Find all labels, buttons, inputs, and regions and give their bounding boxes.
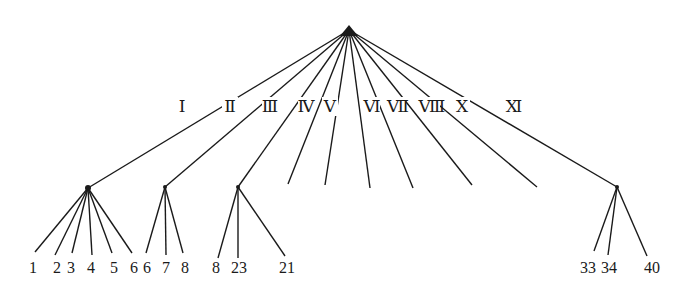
dendrogram: ⅠⅡⅢⅣⅤⅥⅦⅧⅩⅪ 12345667882321333440 [0,0,685,308]
branch-label: Ⅲ [262,97,278,116]
cluster-node [615,185,619,189]
leaf-label: 23 [231,259,247,276]
leaf-label: 1 [29,259,37,276]
leaf-edge [238,187,285,256]
cluster-node [236,185,240,189]
leaf-label: 40 [644,259,660,276]
leaf-labels: 12345667882321333440 [29,259,660,276]
leaf-label: 2 [53,259,61,276]
leaf-edge [617,187,647,256]
root-node [340,25,358,36]
leaf-label: 33 [580,259,596,276]
leaf-edge [146,187,165,253]
tree-edges [35,30,647,258]
branch-label: Ⅱ [224,97,236,116]
leaf-label: 7 [162,259,170,276]
leaf-edge [165,187,166,255]
branch-label: Ⅰ [179,97,186,116]
branch-label: Ⅴ [323,97,337,116]
leaf-edge [165,187,183,253]
cluster-node [85,185,91,191]
leaf-label: 8 [212,259,220,276]
leaf-edge [88,188,132,253]
branch-edge [165,30,349,187]
branch-label: Ⅶ [386,97,409,116]
leaf-label: 4 [87,259,95,276]
branch-label: Ⅳ [298,97,316,116]
leaf-label: 8 [181,259,189,276]
branch-label: Ⅹ [456,97,469,116]
cluster-node [163,185,167,189]
leaf-label: 3 [67,259,75,276]
leaf-label: 5 [110,259,118,276]
leaf-label: 34 [601,259,617,276]
leaf-label: 21 [279,259,295,276]
leaf-edge [608,187,617,255]
leaf-edge [594,187,617,251]
branch-labels: ⅠⅡⅢⅣⅤⅥⅦⅧⅩⅪ [174,97,522,116]
leaf-label: 6 [143,259,151,276]
leaf-edge [218,187,238,258]
branch-label: Ⅷ [418,97,446,116]
branch-label: Ⅵ [362,97,380,116]
leaf-label: 6 [130,259,138,276]
branch-label: Ⅺ [506,97,522,116]
